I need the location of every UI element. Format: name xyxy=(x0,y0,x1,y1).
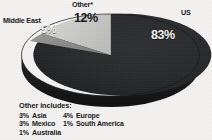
footnote-pct: 1% xyxy=(19,129,32,137)
slice-value-middle-east: 5% xyxy=(41,24,56,35)
footnote-title: Other includes: xyxy=(19,101,124,110)
footnote-block: Other includes: 3% Asia 4% Europe 3% Mex… xyxy=(19,101,124,137)
footnote-entry: 4% Europe xyxy=(63,112,100,120)
footnote-entry: 1% South America xyxy=(63,120,124,128)
footnote-name: Mexico xyxy=(32,120,55,128)
pie-chart-figure: US Other* Middle East 83% 12% 5% Other i… xyxy=(0,0,212,140)
footnote-row: 3% Asia 4% Europe xyxy=(19,112,124,120)
footnote-entry: 1% Australia xyxy=(19,129,63,137)
footnote-entry: 3% Mexico xyxy=(19,120,63,128)
footnote-row: 1% Australia xyxy=(19,129,124,137)
footnote-name: Europe xyxy=(76,112,100,120)
footnote-pct: 4% xyxy=(63,112,76,120)
footnote-pct: 3% xyxy=(19,120,32,128)
footnote-pct: 1% xyxy=(63,120,76,128)
footnote-name: Australia xyxy=(32,129,61,137)
footnote-entry: 3% Asia xyxy=(19,112,63,120)
slice-value-other: 12% xyxy=(74,12,98,25)
slice-label-other: Other* xyxy=(72,1,93,8)
slice-label-us: US xyxy=(181,9,191,16)
footnote-name: Asia xyxy=(32,112,46,120)
slice-value-us: 83% xyxy=(151,29,175,42)
slice-label-middle-east: Middle East xyxy=(3,17,41,24)
footnote-pct: 3% xyxy=(19,112,32,120)
footnote-row: 3% Mexico 1% South America xyxy=(19,120,124,128)
footnote-name: South America xyxy=(76,120,124,128)
